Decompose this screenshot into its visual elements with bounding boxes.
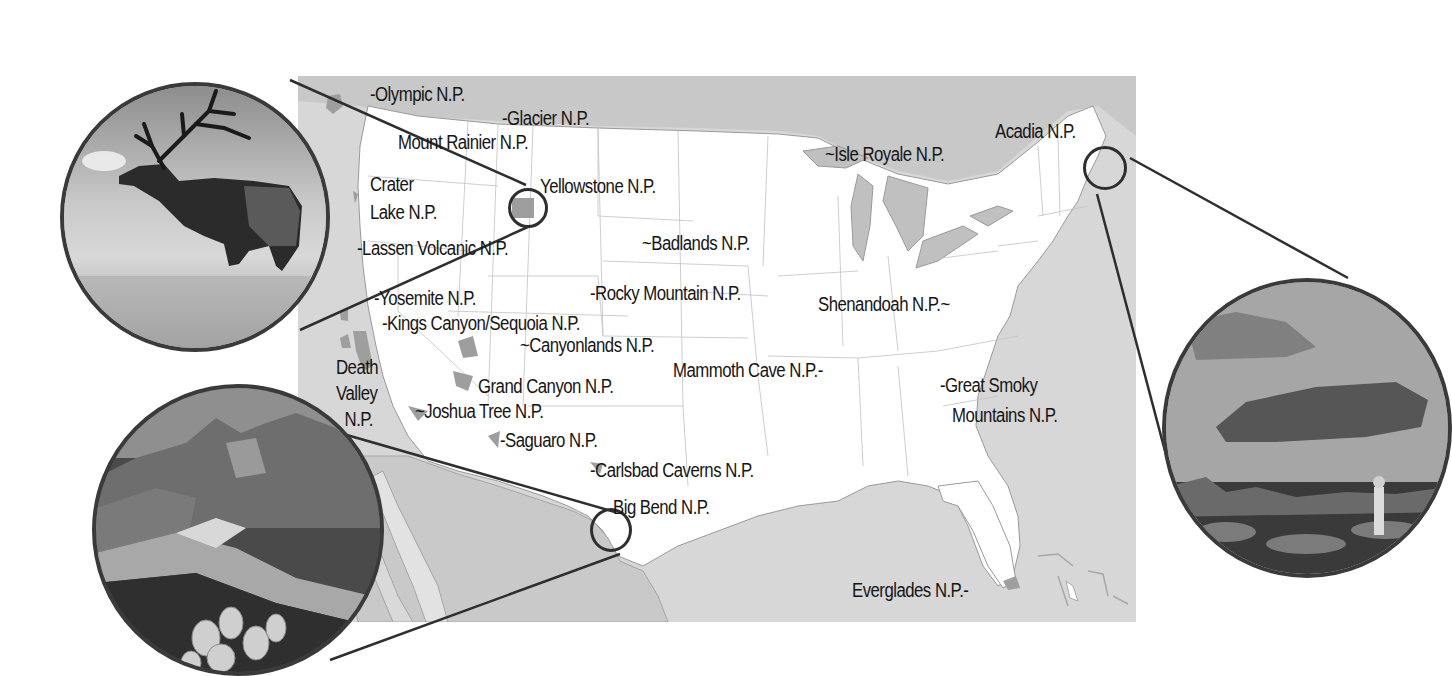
label-kings-canyon-sequoia: -Kings Canyon/Sequoia N.P. [382,313,580,334]
map-shapes [298,76,1136,622]
label-everglades: Everglades N.P.- [852,580,968,601]
elk-photo [60,82,330,352]
label-lassen-volcanic: -Lassen Volcanic N.P. [357,238,508,259]
label-rocky-mountain: -Rocky Mountain N.P. [590,283,741,304]
coast-photo [1162,278,1452,578]
label-acadia: Acadia N.P. [995,121,1076,142]
label-shenandoah: Shenandoah N.P.~ [818,294,950,315]
label-joshua-tree: ~Joshua Tree N.P. [415,401,543,422]
label-grand-canyon: Grand Canyon N.P. [478,376,613,397]
label-olympic: -Olympic N.P. [370,84,465,105]
label-crater-lake: Crater Lake N.P. [370,170,437,226]
label-yellowstone: Yellowstone N.P. [540,176,656,197]
label-saguaro: -Saguaro N.P. [500,430,597,451]
label-canyonlands: ~Canyonlands N.P. [520,335,654,356]
label-big-bend: Big Bend N.P. [613,497,709,518]
label-mount-rainier: Mount Rainier N.P. [398,132,528,153]
label-mammoth-cave: Mammoth Cave N.P.- [673,360,823,381]
label-badlands: ~Badlands N.P. [642,233,750,254]
label-great-smoky-mountains: -Great Smoky Mountains N.P. [940,370,1057,430]
label-carlsbad-caverns: -Carlsbad Caverns N.P. [590,460,754,481]
acadia-locator-circle [1083,146,1127,190]
label-isle-royale: ~Isle Royale N.P. [825,144,944,165]
label-death-valley: Death Valley N.P. [336,354,378,432]
label-yosemite: -Yosemite N.P. [374,288,476,309]
coast-image [1166,282,1448,574]
elk-image [64,86,326,348]
label-glacier: -Glacier N.P. [502,108,589,129]
us-map [298,76,1136,622]
